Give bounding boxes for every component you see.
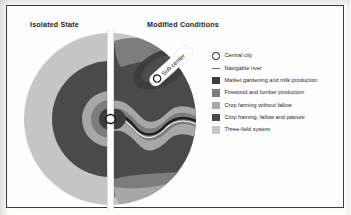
swatch-icon <box>212 126 220 134</box>
swatch-icon <box>212 102 220 110</box>
legend-item-central-city: Central city <box>212 50 344 62</box>
legend-label: Crop framing, fallow and pasture <box>225 115 305 121</box>
legend-item-navigable-river: Navigable river <box>212 62 344 74</box>
legend: Central city Navigable river Market gard… <box>212 50 344 136</box>
legend-label: Firewood and lumber production <box>225 90 305 96</box>
legend-label: Crop farming without fallow <box>225 103 292 109</box>
legend-label: Market gardening and milk production <box>225 78 318 84</box>
legend-label: Three-field system <box>225 127 271 133</box>
central-city-marker-icon <box>106 114 115 123</box>
figure-frame: Sub-center Isolated State Modified Condi… <box>6 5 344 208</box>
legend-item-crop-without-fallow: Crop farming without fallow <box>212 99 344 111</box>
legend-item-firewood-lumber: Firewood and lumber production <box>212 87 344 99</box>
swatch-icon <box>212 114 220 122</box>
legend-label: Navigable river <box>225 66 262 72</box>
panel-title-isolated-state: Isolated State <box>30 20 79 29</box>
diagram-svg: Sub-center <box>21 29 211 209</box>
swatch-icon <box>212 89 220 97</box>
river-line-icon <box>212 65 220 73</box>
legend-item-three-field-system: Three-field system <box>212 124 344 136</box>
legend-item-crop-fallow-pasture: Crop framing, fallow and pasture <box>212 111 344 123</box>
swatch-icon <box>212 77 220 85</box>
legend-item-market-gardening: Market gardening and milk production <box>212 75 344 87</box>
circle-outline-icon <box>212 52 220 60</box>
panel-title-modified-conditions: Modified Conditions <box>147 20 219 29</box>
von-thunen-diagram: Sub-center <box>21 29 211 209</box>
legend-label: Central city <box>225 53 253 59</box>
